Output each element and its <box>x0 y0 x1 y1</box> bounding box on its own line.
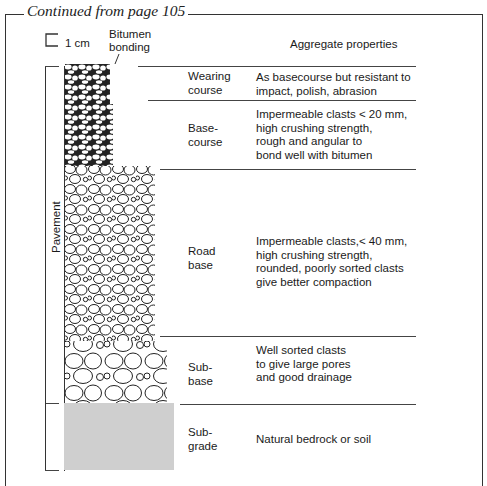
properties-basecourse: Impermeable clasts < 20 mm,high crushing… <box>256 108 407 162</box>
layer-name-roadbase: Roadbase <box>188 245 216 272</box>
column-header: Aggregate properties <box>290 38 397 52</box>
layer-name-subgrade: Sub-grade <box>188 426 217 453</box>
properties-subbase: Well sorted claststo give large poresand… <box>256 344 352 385</box>
pavement-bracket <box>45 66 46 404</box>
properties-wearing: As basecourse but resistant toimpact, po… <box>256 71 411 98</box>
layer-name-wearing: Wearingcourse <box>188 70 231 97</box>
pavement-label: Pavement <box>50 201 62 253</box>
layer-name-subbase: Sub-base <box>188 361 213 388</box>
properties-roadbase: Impermeable clasts,< 40 mm,high crushing… <box>256 235 407 289</box>
subgrade-fill <box>64 403 174 470</box>
aggregate-column <box>64 64 174 404</box>
scale-bar-icon <box>45 33 59 47</box>
subgrade-bracket <box>45 403 46 471</box>
bitumen-label-1: Bitumen <box>109 28 151 42</box>
layer-name-basecourse: Base-course <box>188 122 223 149</box>
scale-label: 1 cm <box>65 37 90 51</box>
properties-subgrade: Natural bedrock or soil <box>256 433 371 447</box>
continued-caption: Continued from page 105 <box>24 2 188 20</box>
